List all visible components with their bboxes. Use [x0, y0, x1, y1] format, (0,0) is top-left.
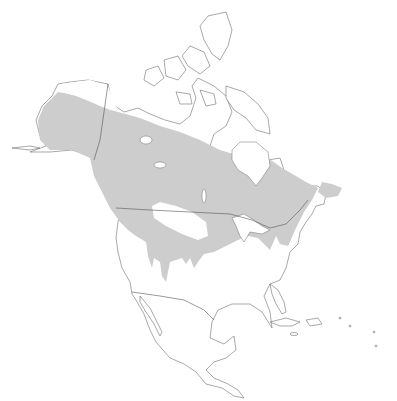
- range-map: [0, 0, 397, 401]
- lake-winnipeg: [202, 189, 206, 203]
- great-slave-lake: [154, 162, 166, 168]
- caribbean-islands: [270, 317, 377, 347]
- aleutian-islands: [12, 146, 40, 150]
- great-bear-lake: [140, 136, 152, 144]
- florida: [270, 284, 286, 314]
